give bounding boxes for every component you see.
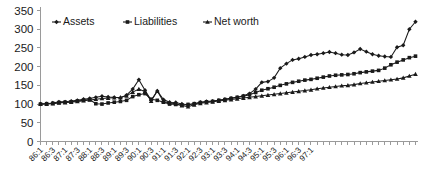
data-point-square xyxy=(285,82,289,86)
data-point-diamond xyxy=(54,20,58,24)
data-point-square xyxy=(352,72,356,76)
data-point-square xyxy=(358,71,362,75)
data-point-square xyxy=(346,73,350,77)
data-point-triangle xyxy=(137,87,142,91)
data-point-square xyxy=(321,75,325,79)
data-point-square xyxy=(389,63,393,67)
data-point-square xyxy=(131,95,135,99)
data-point-square xyxy=(137,93,141,97)
data-point-square xyxy=(414,54,418,58)
line-chart: 050100150200250300350 86:186:387:187:388… xyxy=(0,0,424,176)
data-point-square xyxy=(106,101,110,105)
data-point-triangle xyxy=(413,72,418,76)
data-point-diamond xyxy=(401,43,405,47)
legend-label: Net worth xyxy=(214,15,259,27)
data-point-diamond xyxy=(333,51,337,55)
series-assets xyxy=(38,20,417,107)
y-tick-label: 200 xyxy=(14,61,33,73)
data-point-square xyxy=(340,73,344,77)
data-point-square xyxy=(156,99,160,103)
data-point-square xyxy=(119,100,123,104)
series-group xyxy=(38,20,418,109)
data-point-square xyxy=(383,66,387,70)
data-point-square xyxy=(254,91,258,95)
y-tick-label: 300 xyxy=(14,23,33,35)
data-point-diamond xyxy=(315,52,319,56)
data-point-square xyxy=(291,81,295,85)
data-point-square xyxy=(371,69,375,73)
data-point-square xyxy=(315,76,319,80)
data-point-square xyxy=(395,60,399,64)
y-tick-label: 350 xyxy=(14,5,33,17)
chart-container: 050100150200250300350 86:186:387:187:388… xyxy=(0,0,424,176)
data-point-diamond xyxy=(309,53,313,57)
data-point-diamond xyxy=(352,50,356,54)
data-point-diamond xyxy=(321,51,325,55)
series-path xyxy=(41,74,416,107)
y-tick-label: 100 xyxy=(14,98,33,110)
y-axis-ticks xyxy=(37,11,41,142)
y-tick-label: 0 xyxy=(27,136,33,148)
data-point-diamond xyxy=(346,53,350,57)
data-point-square xyxy=(125,99,129,103)
x-axis-labels: 86:186:387:187:388:188:389:189:390:190:3… xyxy=(27,145,315,163)
legend-item-net-worth[interactable]: Net worth xyxy=(203,15,259,27)
data-point-square xyxy=(377,69,381,73)
data-point-square xyxy=(266,87,270,91)
data-point-square xyxy=(401,58,405,62)
data-point-diamond xyxy=(383,54,387,58)
data-point-square xyxy=(309,78,313,82)
data-point-diamond xyxy=(370,52,374,56)
data-point-square xyxy=(112,100,116,104)
data-point-square xyxy=(94,102,98,106)
data-point-diamond xyxy=(358,47,362,51)
data-point-square xyxy=(334,73,338,77)
data-point-square xyxy=(272,85,276,89)
data-point-square xyxy=(328,74,332,78)
y-axis-labels: 050100150200250300350 xyxy=(14,5,33,148)
data-point-square xyxy=(100,102,104,106)
data-point-diamond xyxy=(296,57,300,61)
legend-label: Assets xyxy=(63,15,95,27)
data-point-square xyxy=(297,79,301,83)
legend-label: Liabilities xyxy=(134,15,177,27)
y-tick-label: 50 xyxy=(21,117,34,129)
data-point-square xyxy=(278,84,282,88)
data-point-diamond xyxy=(303,55,307,59)
data-point-diamond xyxy=(327,50,331,54)
legend-item-assets[interactable]: Assets xyxy=(52,15,95,27)
series-path xyxy=(41,22,416,105)
data-point-diamond xyxy=(340,52,344,56)
data-point-square xyxy=(260,88,264,92)
data-point-diamond xyxy=(364,49,368,53)
data-point-square xyxy=(303,78,307,82)
x-tick-label: 97:1 xyxy=(298,145,316,163)
data-point-diamond xyxy=(376,54,380,58)
y-tick-label: 150 xyxy=(14,79,33,91)
y-tick-label: 250 xyxy=(14,42,33,54)
legend-item-liabilities[interactable]: Liabilities xyxy=(123,15,177,27)
chart-legend: AssetsLiabilitiesNet worth xyxy=(52,15,259,27)
data-point-square xyxy=(365,70,369,74)
data-point-square xyxy=(408,56,412,60)
data-point-square xyxy=(126,20,130,24)
